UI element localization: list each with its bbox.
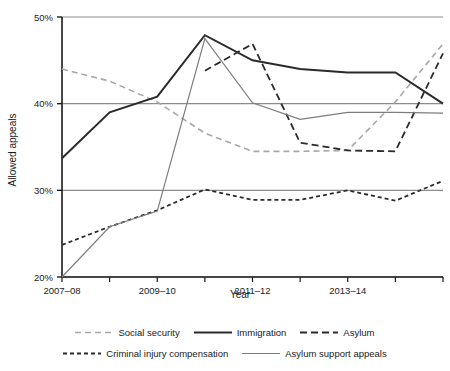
x-axis <box>62 277 443 282</box>
legend-swatch-icon <box>194 328 232 337</box>
gridlines <box>62 17 443 277</box>
x-axis-title: Year <box>230 289 251 300</box>
y-tick-label: 20% <box>34 272 54 283</box>
series-line-4 <box>62 39 443 277</box>
legend-item-asylum[interactable]: Asylum <box>300 328 374 338</box>
legend-row: Criminal injury compensationAsylum suppo… <box>0 343 450 364</box>
y-axis-title: Allowed appeals <box>7 114 18 187</box>
series-line-1 <box>62 35 443 158</box>
legend-item-social-security[interactable]: Social security <box>75 328 179 338</box>
legend-item-asylum-support-appeals[interactable]: Asylum support appeals <box>242 349 386 359</box>
legend-item-criminal-injury-compensation[interactable]: Criminal injury compensation <box>63 349 228 359</box>
chart-legend: Social securityImmigrationAsylumCriminal… <box>0 322 450 364</box>
x-tick-label: 2013–14 <box>329 285 366 296</box>
legend-swatch-icon <box>300 328 338 337</box>
y-tick-label: 40% <box>34 98 54 109</box>
legend-row: Social securityImmigrationAsylum <box>0 322 450 343</box>
legend-label: Social security <box>118 328 179 338</box>
legend-label: Immigration <box>237 328 287 338</box>
legend-label: Criminal injury compensation <box>106 349 228 359</box>
x-tick-labels: 2007–082009–102011–122013–14 <box>44 285 367 296</box>
legend-label: Asylum support appeals <box>285 349 386 359</box>
y-tick-labels: 20%30%40%50% <box>34 12 54 283</box>
legend-swatch-icon <box>242 349 280 358</box>
x-tick-label: 2007–08 <box>44 285 81 296</box>
y-tick-label: 50% <box>34 12 54 23</box>
legend-item-immigration[interactable]: Immigration <box>194 328 287 338</box>
y-tick-label: 30% <box>34 185 54 196</box>
legend-label: Asylum <box>343 328 374 338</box>
plot-area: 20%30%40%50% 2007–082009–102011–122013–1… <box>0 0 450 300</box>
legend-swatch-icon <box>63 349 101 358</box>
x-tick-label: 2009–10 <box>139 285 176 296</box>
line-chart-svg: 20%30%40%50% 2007–082009–102011–122013–1… <box>0 0 450 300</box>
y-axis <box>57 17 62 277</box>
series-line-2 <box>205 44 443 151</box>
legend-swatch-icon <box>75 328 113 337</box>
chart-figure: 20%30%40%50% 2007–082009–102011–122013–1… <box>0 0 450 371</box>
data-series-group <box>62 35 443 277</box>
